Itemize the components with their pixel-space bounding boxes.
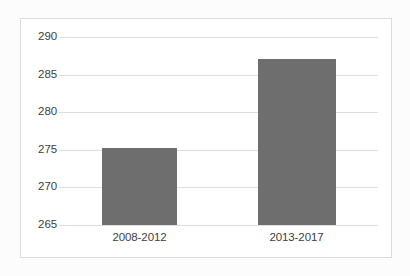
xtick-label-2008-2012: 2008-2012 xyxy=(94,232,185,244)
bar-2013-2017[interactable] xyxy=(258,59,336,225)
gridline-290 xyxy=(59,37,378,38)
plot-area: 290 285 280 275 270 265 2008-2012 2013-2… xyxy=(21,19,391,257)
gridline-265 xyxy=(59,225,378,226)
bar-2008-2012[interactable] xyxy=(102,148,177,226)
xtick-label-2013-2017: 2013-2017 xyxy=(251,232,342,244)
ytick-label-275: 275 xyxy=(25,144,57,156)
ytick-label-285: 285 xyxy=(25,69,57,81)
ytick-label-280: 280 xyxy=(25,106,57,118)
bar-chart-figure: 290 285 280 275 270 265 2008-2012 2013-2… xyxy=(20,18,392,258)
ytick-label-290: 290 xyxy=(25,31,57,43)
ytick-label-270: 270 xyxy=(25,182,57,194)
ytick-label-265: 265 xyxy=(25,219,57,231)
